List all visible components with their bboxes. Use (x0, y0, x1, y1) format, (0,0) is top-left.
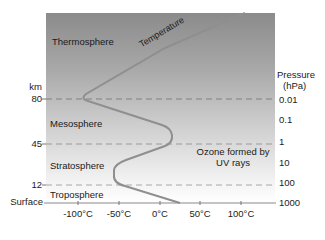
ozone-annotation-line2: UV rays (190, 158, 276, 168)
temp-tick-minus50: -50°C (99, 209, 139, 219)
temp-tick-minus100: -100°C (58, 209, 98, 219)
temp-tick-50: 50°C (180, 209, 220, 219)
pressure-tick-1: 1 (279, 137, 284, 147)
pressure-axis-label: Pressure (277, 70, 315, 80)
ozone-annotation-line1: Ozone formed by (190, 147, 276, 157)
km-axis-label: km (0, 82, 42, 92)
km-tick-80: 80 (0, 94, 42, 104)
km-tick-45: 45 (0, 139, 42, 149)
km-tick-surface: Surface (0, 197, 43, 207)
layer-stratosphere: Stratosphere (50, 161, 104, 171)
pressure-tick-10: 10 (279, 158, 290, 168)
layer-mesosphere: Mesosphere (50, 119, 102, 129)
layer-troposphere: Troposphere (50, 190, 104, 200)
km-tick-12: 12 (0, 180, 42, 190)
pressure-tick-1000: 1000 (279, 198, 300, 208)
pressure-unit-label: (hPa) (283, 81, 306, 91)
pressure-tick-0.01: 0.01 (279, 95, 298, 105)
temp-tick-0: 0°C (140, 209, 180, 219)
layer-thermosphere: Thermosphere (52, 37, 114, 47)
pressure-tick-100: 100 (279, 178, 295, 188)
pressure-tick-0.1: 0.1 (279, 115, 292, 125)
temp-tick-100: 100°C (221, 209, 261, 219)
